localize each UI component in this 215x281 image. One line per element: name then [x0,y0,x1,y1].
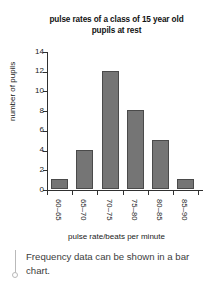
bar [76,150,93,189]
y-axis-label: number of pupils [8,62,17,121]
y-tick-label: 2 [40,165,44,174]
caption-text: Frequency data can be shown in a bar cha… [26,250,206,277]
pin-circle [12,272,18,278]
bar [51,179,68,189]
y-tick-label: 4 [40,145,44,154]
x-axis-line [47,190,203,191]
x-category-label: 80–85 [155,199,164,221]
x-tick-mark [47,191,48,195]
x-tick-mark [123,191,124,195]
chart-title: pulse rates of a class of 15 year old pu… [24,14,209,36]
x-tick-mark [173,191,174,195]
y-tick-label: 14 [35,47,44,56]
bar [127,110,144,189]
x-tick-mark [72,191,73,195]
x-tick-mark [97,191,98,195]
x-category-label: 65–70 [79,199,88,221]
bar [177,179,194,189]
y-tick-label: 12 [35,66,44,75]
chart-title-line-2: pupils at rest [92,26,142,35]
x-axis-label: pulse rate/beats per minute [24,232,209,241]
bar [102,71,119,189]
pin-stem [15,250,16,273]
x-tick-mark [198,191,199,195]
bar [152,140,169,189]
y-tick-label: 0 [40,185,44,194]
y-axis-line [47,52,48,190]
chart-title-line-1: pulse rates of a class of 15 year old [49,15,183,24]
x-category-label: 60–65 [54,199,63,221]
x-category-label: 70–75 [105,199,114,221]
pin-marker-icon [11,250,20,280]
bar-chart-figure: pulse rates of a class of 15 year old pu… [0,0,215,248]
y-tick-label: 10 [35,86,44,95]
plot-area: 02468101214 60–6565–7070–7575–8080–8585–… [47,52,203,190]
caption-block: Frequency data can be shown in a bar cha… [0,249,215,281]
x-category-label: 85–90 [180,199,189,221]
x-category-label: 75–80 [130,199,139,221]
x-tick-mark [148,191,149,195]
y-tick-label: 8 [40,106,44,115]
y-tick-label: 6 [40,125,44,134]
